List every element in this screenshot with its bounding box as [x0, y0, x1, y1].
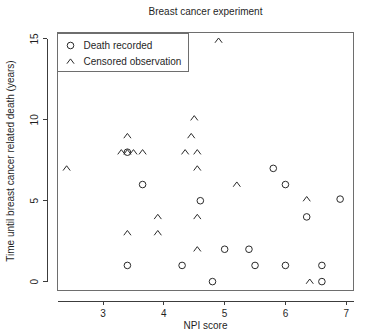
data-point-censored — [194, 150, 201, 155]
data-point-death — [139, 181, 146, 188]
x-tick-label: 6 — [283, 308, 289, 319]
x-tick-label: 7 — [343, 308, 349, 319]
y-axis-title: Time until breast cancer related death (… — [5, 60, 16, 261]
data-point-censored — [182, 150, 189, 155]
data-point-death — [337, 196, 344, 203]
data-point-censored — [215, 38, 222, 43]
data-point-death — [179, 262, 186, 269]
y-tick-label: 0 — [30, 278, 41, 284]
data-point-death — [303, 214, 310, 221]
title-group: Breast cancer experiment — [149, 6, 263, 17]
series-circle — [124, 149, 343, 285]
x-tick-label: 4 — [161, 308, 167, 319]
x-tick-label: 5 — [222, 308, 228, 319]
data-point-censored — [188, 133, 195, 138]
y-tick-label: 5 — [30, 198, 41, 204]
data-point-censored — [124, 230, 131, 235]
data-point-death — [270, 165, 277, 172]
data-point-censored — [194, 166, 201, 171]
data-point-censored — [191, 116, 198, 121]
data-point-censored — [233, 182, 240, 187]
chart-figure: Breast cancer experiment 34567 051015 De… — [0, 0, 370, 335]
data-point-death — [319, 278, 326, 285]
data-point-death — [221, 246, 228, 253]
data-point-censored — [154, 214, 161, 219]
data-point-censored — [139, 150, 146, 155]
data-point-death — [282, 262, 289, 269]
x-axis-title: NPI score — [184, 320, 228, 331]
data-point-censored — [124, 133, 131, 138]
data-point-censored — [303, 197, 310, 202]
data-point-death — [197, 197, 204, 204]
x-tick-label: 3 — [100, 308, 106, 319]
data-point-censored — [194, 247, 201, 252]
data-point-death — [246, 246, 253, 253]
data-point-death — [252, 262, 259, 269]
chart-title: Breast cancer experiment — [149, 6, 263, 17]
data-point-censored — [154, 230, 161, 235]
y-tick-label: 10 — [30, 114, 41, 126]
y-tick-label: 15 — [30, 33, 41, 45]
legend-label: Censored observation — [84, 56, 182, 67]
legend-group: Death recordedCensored observation — [58, 34, 189, 72]
data-points-group — [63, 38, 343, 285]
data-point-death — [319, 262, 326, 269]
data-point-censored — [194, 214, 201, 219]
series-caret — [63, 38, 313, 284]
data-point-censored — [63, 166, 70, 171]
data-point-death — [124, 262, 131, 269]
y-axis-group: 051015 — [30, 33, 48, 284]
data-point-censored — [306, 279, 313, 284]
data-point-death — [282, 181, 289, 188]
scatter-plot: Breast cancer experiment 34567 051015 De… — [0, 0, 370, 335]
legend-label: Death recorded — [84, 40, 153, 51]
x-axis-group: 34567 — [58, 301, 354, 319]
data-point-death — [209, 278, 216, 285]
